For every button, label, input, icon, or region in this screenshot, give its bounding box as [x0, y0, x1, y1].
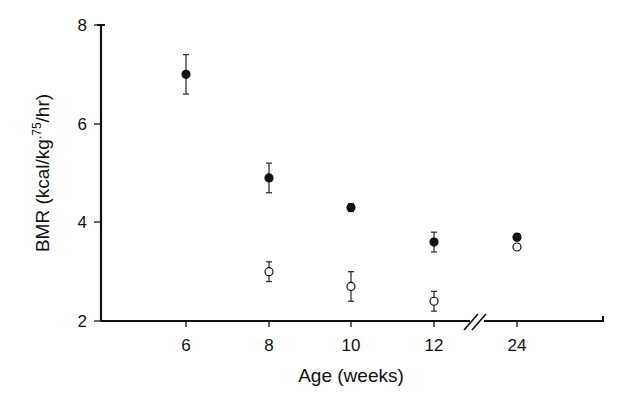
filled-data-point [182, 55, 190, 94]
y-axis-title: BMR (kcal/kg.75/hr) [30, 94, 53, 252]
open-data-point [265, 262, 273, 282]
x-tick-label: 24 [508, 336, 527, 355]
filled-data-point [347, 204, 355, 212]
open-data-point [513, 243, 521, 251]
x-tick-label: 10 [342, 336, 361, 355]
x-tick-label: 6 [181, 336, 190, 355]
filled-data-point [430, 232, 438, 252]
y-axis-title-sup: .75 [30, 122, 44, 139]
filled-data-point [265, 163, 273, 193]
y-tick-label: 2 [78, 312, 87, 331]
filled-data-point [513, 233, 521, 241]
y-axis-title-main: BMR (kcal/kg [32, 139, 53, 252]
y-ticks: 8 6 4 2 [78, 16, 101, 331]
bmr-chart: 8 6 4 2 6 8 10 12 24 Age (weeks) BMR (kc… [0, 0, 631, 402]
y-axis-title-tail: /hr) [32, 94, 53, 123]
open-data-point [347, 272, 355, 302]
y-tick-label: 4 [78, 213, 87, 232]
x-tick-label: 12 [425, 336, 444, 355]
open-data-point [430, 291, 438, 311]
y-tick-label: 6 [78, 115, 87, 134]
y-tick-label: 8 [78, 16, 87, 35]
data-points [182, 55, 521, 312]
x-tick-label: 8 [264, 336, 273, 355]
x-axis-title: Age (weeks) [298, 365, 404, 386]
